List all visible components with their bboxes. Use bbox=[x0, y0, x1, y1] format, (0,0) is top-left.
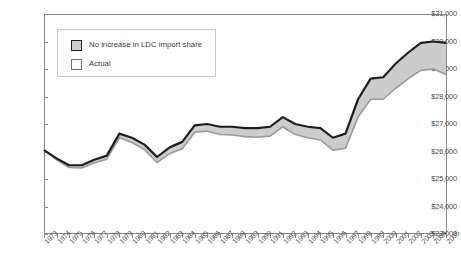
legend-label-actual: Actual bbox=[89, 60, 111, 68]
legend-swatch-shaded-icon bbox=[71, 40, 82, 51]
chart-legend: No increase in LDC import share Actual bbox=[57, 29, 216, 77]
legend-item-no-increase: No increase in LDC import share bbox=[71, 39, 202, 51]
y-tick-label: $25,000 bbox=[417, 175, 457, 182]
y-tick-mark bbox=[44, 14, 48, 15]
y-tick-mark bbox=[44, 69, 48, 70]
y-tick-label: $24,000 bbox=[417, 203, 457, 210]
y-tick-label: $31,000 bbox=[417, 10, 457, 17]
y-tick-mark bbox=[44, 207, 48, 208]
y-tick-label: $29,000 bbox=[417, 65, 457, 72]
y-tick-mark bbox=[44, 152, 48, 153]
y-tick-label: $30,000 bbox=[417, 38, 457, 45]
y-tick-label: $26,000 bbox=[417, 148, 457, 155]
legend-item-actual: Actual bbox=[71, 58, 111, 70]
legend-swatch-outline-icon bbox=[71, 59, 82, 70]
y-tick-mark bbox=[44, 179, 48, 180]
y-tick-mark bbox=[44, 97, 48, 98]
y-tick-mark bbox=[44, 42, 48, 43]
y-tick-label: $28,000 bbox=[417, 93, 457, 100]
legend-label-no-increase: No increase in LDC import share bbox=[89, 41, 202, 49]
y-tick-mark bbox=[44, 124, 48, 125]
y-tick-label: $27,000 bbox=[417, 120, 457, 127]
plot-frame-top bbox=[44, 14, 447, 15]
